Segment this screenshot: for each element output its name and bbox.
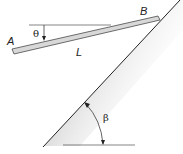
beta-arrowhead-bottom-icon [101,140,105,145]
theta-arrowhead-icon [42,36,46,41]
label-beta: β [103,112,109,123]
label-theta: θ [33,28,39,39]
inclined-wall-surface [43,0,180,147]
label-point-a: A [6,35,14,47]
rod-on-incline-diagram: A B L θ β [0,0,183,154]
label-point-b: B [140,5,147,17]
label-length: L [76,46,82,58]
